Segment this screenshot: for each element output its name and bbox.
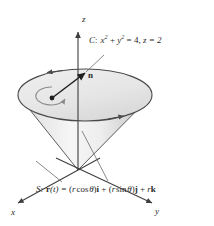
x-axis-label: x	[11, 208, 15, 217]
curve-c-equals: = 4,	[127, 35, 141, 45]
curve-c-z-condition: z = 2	[143, 35, 162, 45]
surface-s-param: (t) =	[50, 184, 67, 194]
curve-c-x-exponent: 2	[105, 33, 108, 40]
surface-s-colon: :	[41, 184, 44, 194]
surface-s-term2-r: r	[112, 184, 116, 194]
curve-c-y-exponent: 2	[121, 33, 124, 40]
surface-s-plus-2: +	[140, 184, 145, 194]
cone-surface-diagram: z x y n C: x2 + y2 = 4, z = 2 S: r(t) = …	[0, 0, 214, 226]
surface-s-plus-1: +	[101, 184, 106, 194]
surface-s-term1-fn: cos	[76, 184, 88, 194]
surface-s-annotation: S: r(t) = (r cos θ)i + (r sin θ)j + rk	[36, 185, 156, 194]
curve-c-colon: :	[95, 35, 98, 45]
curve-c-annotation: C: x2 + y2 = 4, z = 2	[89, 36, 161, 45]
surface-s-term3-unit: k	[151, 184, 156, 194]
y-axis-label: y	[155, 207, 159, 216]
surface-s-term2-unit: j	[135, 184, 138, 194]
z-axis-label: z	[82, 15, 86, 24]
surface-s-term2-fn: sin	[116, 184, 127, 194]
y-axis	[56, 158, 152, 203]
x-axis	[18, 158, 100, 203]
normal-vector-label: n	[88, 71, 93, 80]
curve-c-plus: +	[110, 35, 115, 45]
surface-s-term1-unit: i	[97, 184, 100, 194]
